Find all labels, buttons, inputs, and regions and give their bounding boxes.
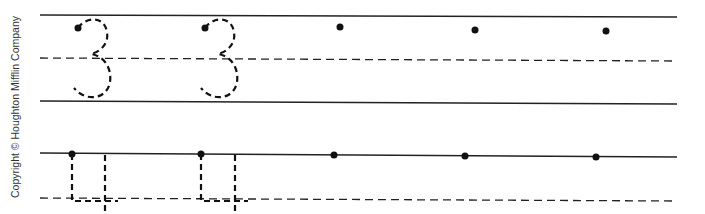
row-2-midline — [40, 198, 677, 201]
handwriting-practice-sheet — [0, 0, 705, 213]
practice-start-dot — [462, 153, 469, 160]
practice-start-dot — [337, 24, 344, 31]
row-1-midline — [40, 58, 677, 61]
row-1-top-line — [40, 15, 677, 17]
practice-start-dot — [472, 27, 479, 34]
digit-4-stroke — [201, 154, 248, 213]
row-1-baseline — [40, 101, 677, 104]
traced-digit-4-1 — [69, 151, 119, 214]
practice-start-dot — [331, 152, 338, 159]
digit-4-stroke — [72, 154, 118, 213]
traced-digit-4-2 — [198, 151, 249, 214]
row-2-top-line — [40, 153, 677, 157]
practice-start-dot — [593, 154, 600, 161]
row-1-guides — [40, 15, 677, 104]
traced-digit-3-2 — [201, 20, 237, 98]
practice-start-dot — [603, 28, 610, 35]
row-2-guides — [40, 153, 677, 201]
